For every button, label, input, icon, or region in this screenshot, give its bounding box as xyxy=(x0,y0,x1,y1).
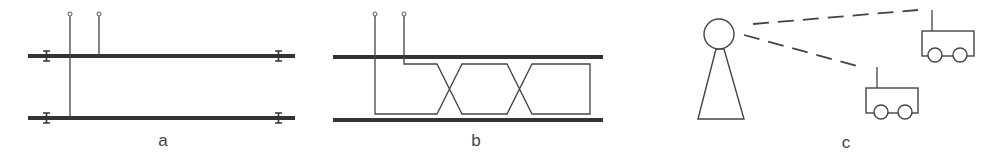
sight-line-upper xyxy=(753,10,918,24)
terminal-icon xyxy=(402,12,406,16)
terminal-icon xyxy=(97,12,101,16)
twisted-wire-lower xyxy=(375,16,590,114)
panel-a: a xyxy=(28,12,295,150)
terminal-icon xyxy=(68,12,72,16)
panel-label-b: b xyxy=(471,131,480,150)
figure-canvas: a b xyxy=(0,0,995,156)
panel-label-a: a xyxy=(158,131,168,150)
person-icon xyxy=(698,19,744,119)
terminal-icon xyxy=(373,12,377,16)
panel-label-c: c xyxy=(842,133,851,152)
panel-c: c xyxy=(698,10,974,152)
panel-b: b xyxy=(333,12,603,150)
sight-line-lower xyxy=(744,35,857,66)
robot-icon xyxy=(866,67,918,119)
robot-icon xyxy=(922,10,974,62)
